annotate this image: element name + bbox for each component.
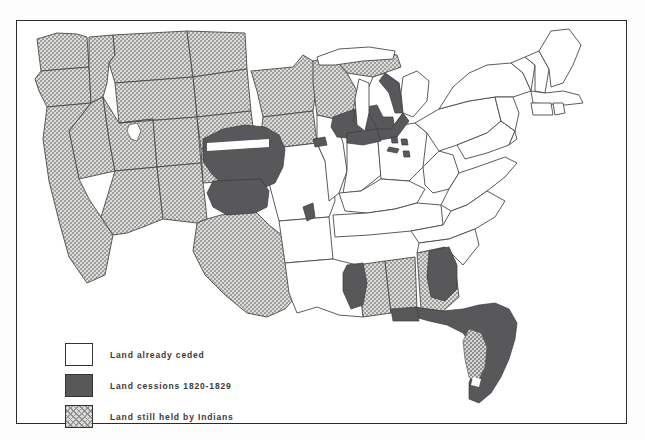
map-frame: Land already ceded Land cessions 1820-18…	[16, 20, 627, 424]
state-south-dakota	[193, 69, 251, 117]
legend-label-cession: Land cessions 1820-1829	[110, 381, 232, 391]
state-washington	[37, 33, 89, 71]
state-oregon	[35, 67, 91, 107]
florida-panhandle	[391, 307, 419, 321]
legend-label-ceded: Land already ceded	[110, 350, 205, 360]
map-figure: Land already ceded Land cessions 1820-18…	[0, 0, 645, 440]
legend-row-held: Land still held by Indians	[65, 401, 295, 432]
cession-ohio-res-1	[391, 137, 398, 143]
cession-oklahoma	[207, 179, 269, 215]
state-rhode-island	[553, 103, 565, 115]
lake-huron-erie	[401, 71, 429, 117]
lake-michigan	[355, 79, 369, 131]
cession-ohio-res-2	[401, 139, 408, 145]
legend-swatch-cession	[65, 374, 93, 397]
legend-label-held: Land still held by Indians	[110, 412, 234, 422]
map-legend: Land already ceded Land cessions 1820-18…	[65, 339, 295, 432]
state-minnesota	[251, 55, 317, 117]
state-wyoming	[115, 77, 197, 123]
state-alabama	[385, 257, 417, 313]
legend-row-cession: Land cessions 1820-1829	[65, 370, 295, 401]
state-connecticut	[531, 103, 553, 115]
state-montana	[109, 31, 193, 83]
legend-swatch-held	[65, 405, 93, 428]
state-new-mexico	[157, 163, 207, 223]
cession-ohio-res-4	[403, 151, 410, 157]
cession-iowa-line	[313, 137, 327, 147]
state-arizona	[101, 167, 163, 235]
state-arkansas	[279, 217, 333, 263]
legend-swatch-ceded	[65, 343, 93, 366]
legend-row-ceded: Land already ceded	[65, 339, 295, 370]
cession-georgia-west	[427, 247, 457, 301]
